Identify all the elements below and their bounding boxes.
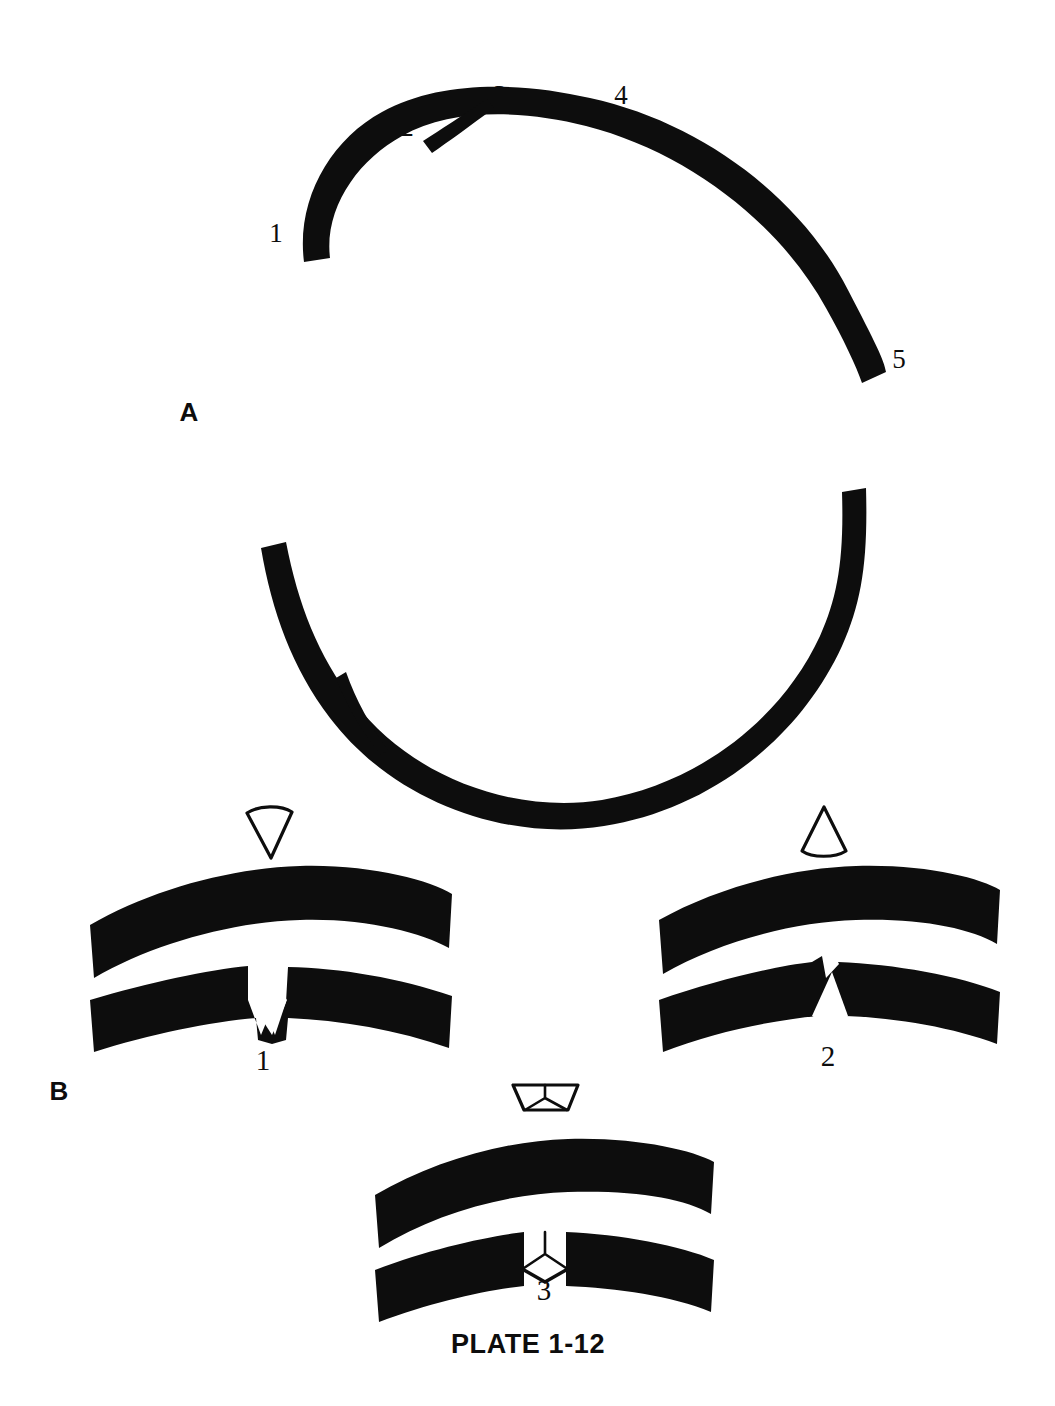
figure-canvas: 1 2 3 4 5 A 1	[0, 0, 1055, 1406]
plate-figure: 1 2 3 4 5 A 1	[0, 0, 1055, 1406]
callout-number-3: 3	[493, 80, 507, 110]
callout-number-2: 2	[400, 112, 414, 142]
section-label-b: B	[50, 1076, 69, 1106]
section-label-a: A	[180, 397, 199, 427]
panel-1-number: 1	[256, 1044, 271, 1076]
panel-3-number: 3	[537, 1274, 552, 1306]
panel-2-number: 2	[821, 1040, 836, 1072]
callout-number-4: 4	[614, 80, 628, 110]
callout-number-5: 5	[892, 344, 906, 374]
plate-caption: PLATE 1-12	[451, 1329, 605, 1359]
callout-number-1: 1	[269, 218, 283, 248]
